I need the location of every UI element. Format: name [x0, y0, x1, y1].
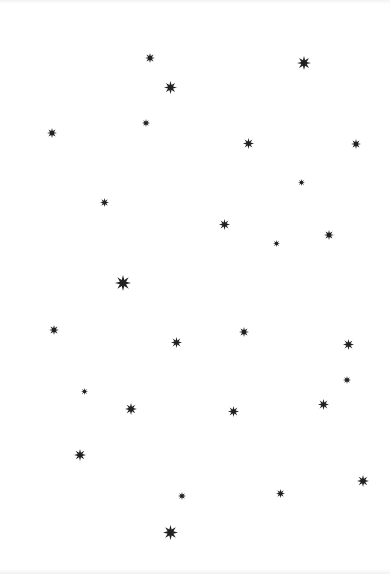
star-icon	[145, 53, 155, 63]
star-icon	[318, 399, 329, 410]
star-icon	[343, 339, 354, 350]
star-icon	[351, 139, 361, 149]
star-icon	[243, 138, 254, 149]
star-icon	[343, 376, 351, 384]
star-icon	[298, 179, 305, 186]
starfield	[0, 0, 390, 574]
star-icon	[142, 119, 150, 127]
star-icon	[47, 128, 57, 138]
star-icon	[228, 406, 239, 417]
star-icon	[49, 325, 59, 335]
star-icon	[125, 403, 137, 415]
star-icon	[297, 56, 311, 70]
star-icon	[324, 230, 334, 240]
star-icon	[163, 525, 178, 540]
star-icon	[219, 219, 230, 230]
star-icon	[74, 449, 86, 461]
star-icon	[239, 327, 249, 337]
star-icon	[171, 337, 182, 348]
star-icon	[81, 388, 88, 395]
star-icon	[273, 240, 280, 247]
star-icon	[276, 489, 285, 498]
star-icon	[164, 81, 177, 94]
star-icon	[100, 198, 109, 207]
star-icon	[357, 475, 369, 487]
star-icon	[115, 275, 131, 291]
star-icon	[178, 492, 186, 500]
